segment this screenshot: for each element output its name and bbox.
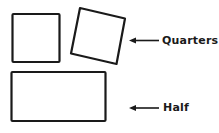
arrow-left-icon-quarters [129, 38, 159, 44]
quarter-square-rotated [71, 8, 125, 64]
label-quarters: Quarters [162, 35, 218, 46]
arrow-left-icon-half [129, 105, 159, 111]
label-half: Half [163, 102, 189, 113]
half-rectangle [12, 72, 106, 121]
quarter-square-upright [13, 14, 60, 62]
